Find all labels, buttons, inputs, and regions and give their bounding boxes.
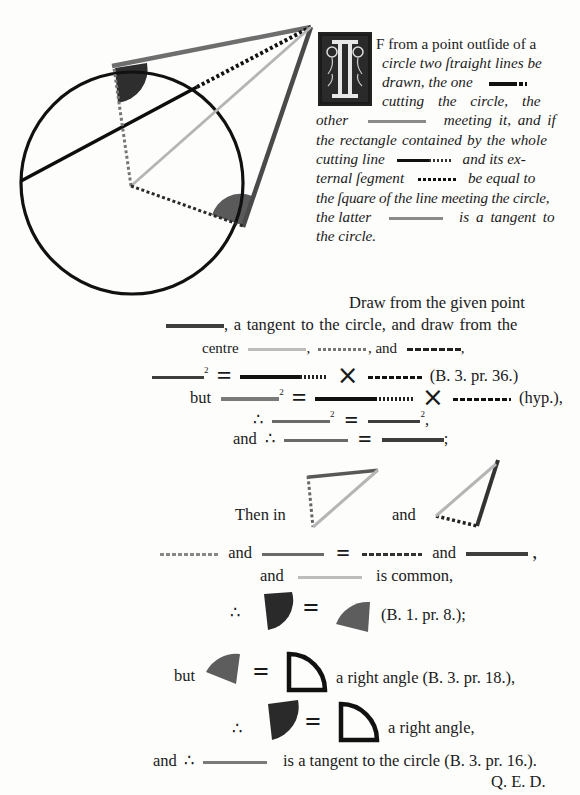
top-tangent-symbol [262,553,324,556]
prop-line: the circle. [316,226,376,245]
proof-line-sides: and = and , [160,541,537,563]
tangent-symbol [466,552,528,556]
angle-top-sector [115,63,148,103]
equals-sign: = [253,662,269,682]
proof-line-3: centre , , and , [202,338,465,358]
medium-angle-icon [334,600,374,634]
triangle-right-icon [430,458,505,533]
proof-line-common: and is common, [260,566,453,586]
secant-inner [21,87,197,181]
tangent-symbol [368,120,426,123]
bottom-radius-symbol [407,348,461,351]
prop-line: other meeting it, and if [316,110,556,129]
right-angle-icon [337,700,381,744]
equals-sign: = [303,598,319,618]
proof-line-1: Draw from the given point [349,293,525,313]
prop-line: F from a point outſide of a [376,34,536,53]
external-segment-symbol [418,178,458,181]
prop-line: drawn, the one [382,72,527,91]
top-radius-symbol [160,553,218,556]
proof-conclusion: and ∴ is a tangent to the circle (B. 3. … [153,750,537,771]
proof-line-2: , a tangent to the circle, and draw from… [166,315,517,335]
and-label: and [392,505,416,525]
prop-line: the latter is a tangent to [316,207,555,226]
centre-line-symbol [298,576,362,579]
right-angle-label: a right angle, [388,718,475,738]
external-segment-symbol [453,398,511,401]
top-tangent-symbol [284,439,348,442]
bottom-radius-symbol [362,553,422,556]
secant-symbol [489,82,527,86]
medium-angle-icon [204,652,244,688]
top-tangent-symbol [221,397,279,401]
tangent-top [112,27,311,66]
prop-line: cutting the circle, the [382,91,541,110]
whole-secant-symbol [397,159,453,162]
triangle-top-icon [300,466,385,536]
top-tangent-symbol [203,761,267,764]
equals-sign: = [305,712,321,732]
drop-cap-ornament: I [318,32,372,106]
top-tangent-symbol [272,420,330,423]
external-segment-symbol [368,376,422,379]
proof-line-angles: ∴ [230,602,241,623]
proof-line-6: ∴ 2 = 2, [253,404,429,430]
geometric-figure [0,0,320,305]
dark-angle-icon [262,590,298,632]
prop-line: ternal ſegment be equal to [316,168,535,187]
then-in-label: Then in [235,505,286,525]
centre-line-symbol [248,348,306,351]
top-radius-symbol [318,348,368,351]
tangent-symbol [382,438,444,442]
tangent-symbol [368,420,420,423]
prop-line: circle two ſtraight lines be [382,53,542,72]
right-angle-icon [285,650,329,694]
proof-line-7: and ∴ = ; [233,428,448,449]
tangent-symbol [389,217,443,220]
whole-secant-symbol [315,397,413,401]
prop-line: the rectangle contained by the whole [316,130,547,149]
whole-secant-symbol [240,375,328,379]
therefore-symbol: ∴ [232,718,243,739]
prop-line: cutting line and its ex- [316,149,526,168]
right-angle-ref: a right angle (B. 3. pr. 18.), [336,668,515,688]
ref-b1-pr8: (B. 1. pr. 8.); [381,605,466,625]
but-label: but [174,666,195,686]
tangent-symbol [152,376,204,379]
tangent-symbol [166,324,224,328]
dark-angle-icon [266,700,302,742]
qed: Q. E. D. [491,772,546,792]
prop-line: the ſquare of the line meeting the circl… [316,188,549,207]
